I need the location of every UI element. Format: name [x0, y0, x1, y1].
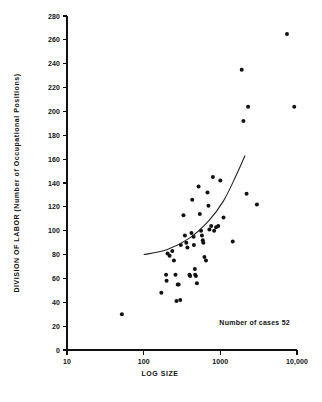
data-point: [206, 204, 210, 208]
data-point: [168, 254, 172, 258]
data-point: [246, 105, 250, 109]
y-tick-label: 200: [48, 108, 60, 115]
data-point: [159, 291, 163, 295]
data-point: [178, 298, 182, 302]
data-point: [173, 273, 177, 277]
y-tick-label: 140: [48, 180, 60, 187]
y-tick-label: 160: [48, 156, 60, 163]
data-point: [194, 274, 198, 278]
x-axis-title: LOG SIZE: [141, 370, 178, 377]
x-tick-label: 10: [63, 358, 71, 365]
regression-curve: [144, 156, 245, 255]
data-point: [177, 282, 181, 286]
y-tick-label: 100: [48, 227, 60, 234]
data-point: [172, 259, 176, 263]
data-point: [197, 185, 201, 189]
data-point: [189, 231, 193, 235]
data-point: [192, 243, 196, 247]
data-point: [165, 279, 169, 283]
data-point: [205, 191, 209, 195]
data-point: [183, 233, 187, 237]
y-tick-label: 60: [52, 275, 60, 282]
x-tick-label: 100: [138, 358, 150, 365]
y-axis-tick-labels: 020406080100120140160180200220240260280: [48, 13, 60, 354]
y-tick-label: 120: [48, 203, 60, 210]
data-point: [120, 312, 124, 316]
data-point: [174, 299, 178, 303]
data-point: [195, 281, 199, 285]
y-tick-label: 180: [48, 132, 60, 139]
data-point: [207, 228, 211, 232]
data-point: [212, 229, 216, 233]
data-point: [190, 198, 194, 202]
data-point: [292, 105, 296, 109]
y-tick-label: 40: [52, 299, 60, 306]
data-point: [222, 216, 226, 220]
y-tick-label: 20: [52, 323, 60, 330]
x-axis: 10100100010,000: [63, 350, 308, 366]
data-points-layer: [120, 32, 296, 316]
data-point: [202, 255, 206, 259]
data-point: [164, 273, 168, 277]
data-point: [170, 249, 174, 253]
y-axis-ticks: [63, 16, 67, 350]
data-point: [285, 32, 289, 36]
x-axis-tick-labels: 10100100010,000: [63, 358, 308, 366]
data-point: [185, 245, 189, 249]
data-point: [216, 224, 220, 228]
data-point: [193, 267, 197, 271]
y-tick-label: 0: [56, 347, 60, 354]
chart-canvas: 020406080100120140160180200220240260280 …: [0, 0, 322, 402]
y-tick-label: 240: [48, 60, 60, 67]
data-point: [198, 212, 202, 216]
x-tick-label: 1000: [212, 358, 228, 365]
y-tick-label: 260: [48, 36, 60, 43]
data-point: [204, 259, 208, 263]
data-point: [241, 119, 245, 123]
number-of-cases-annotation: Number of cases 52: [219, 319, 290, 326]
data-point: [211, 175, 215, 179]
data-point: [240, 68, 244, 72]
data-point: [188, 274, 192, 278]
data-point: [200, 233, 204, 237]
y-axis-title: DIVISION OF LABOR (Number of Occupationa…: [13, 73, 21, 292]
data-point: [218, 179, 222, 183]
x-axis-ticks: [67, 350, 297, 355]
y-tick-label: 220: [48, 84, 60, 91]
scatter-plot-figure: 020406080100120140160180200220240260280 …: [0, 0, 322, 402]
y-tick-label: 280: [48, 13, 60, 20]
data-point: [181, 213, 185, 217]
data-point: [255, 202, 259, 206]
y-tick-label: 80: [52, 251, 60, 258]
x-tick-label: 10,000: [286, 358, 308, 366]
y-axis: 020406080100120140160180200220240260280: [48, 13, 67, 354]
data-point: [201, 241, 205, 245]
data-point: [245, 192, 249, 196]
data-point: [231, 239, 235, 243]
data-point: [209, 224, 213, 228]
